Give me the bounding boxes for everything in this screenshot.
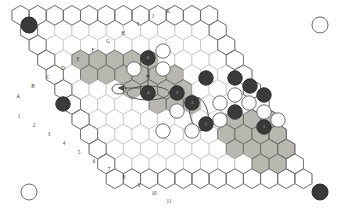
stone-light-4[interactable] [228, 88, 242, 102]
edge-label-number-9: 9 [138, 182, 141, 188]
stone-dark-4[interactable]: 2 [170, 86, 184, 100]
stone-light-8[interactable] [213, 113, 227, 127]
edge-label-letter-C: C [46, 74, 50, 80]
stone-light-7[interactable] [257, 105, 271, 119]
stone-dark-3[interactable]: 4 [141, 86, 155, 100]
stone-dark-5[interactable]: 3 [185, 96, 199, 110]
stone-light-10[interactable] [170, 104, 184, 118]
edge-label-letter-G: G [106, 38, 110, 44]
stone-light-12[interactable] [185, 124, 199, 138]
stone-dark-10[interactable] [228, 105, 242, 119]
stone-light-2[interactable] [127, 62, 141, 76]
edge-label-number-10: 10 [151, 190, 157, 196]
edge-label-number-3: 3 [48, 131, 51, 137]
stone-light-9[interactable] [271, 113, 285, 127]
stone-light-3[interactable] [156, 62, 170, 76]
edge-label-number-8: 8 [123, 174, 126, 180]
stone-dark-12[interactable]: 1 [257, 120, 271, 134]
edge-label-letter-B: B [31, 83, 35, 89]
edge-label-number-11: 11 [167, 198, 172, 204]
edge-label-letter-I: I [137, 21, 139, 27]
stone-dark-12-mark: 1 [263, 124, 265, 129]
stone-dark-4-mark: 2 [176, 90, 178, 95]
stone-dark-11[interactable]: 5 [199, 117, 213, 131]
edge-label-letter-D: D [61, 65, 65, 71]
stone-dark-1[interactable] [56, 97, 70, 111]
edge-label-number-1: 1 [18, 113, 21, 119]
stone-dark-9[interactable] [257, 88, 271, 102]
edge-label-letter-J: J [152, 13, 154, 19]
edge-label-number-6: 6 [93, 158, 96, 164]
edge-label-number-4: 4 [63, 140, 66, 146]
stone-light-11[interactable] [156, 124, 170, 138]
stone-light-5[interactable] [213, 96, 227, 110]
edge-label-number-2: 2 [33, 122, 36, 128]
edge-label-number-7: 7 [108, 166, 111, 172]
corner-stone-top-right[interactable] [312, 17, 328, 33]
hex-board-svg: 642351 ABCDEFGHIJK1234567891011 [0, 0, 349, 216]
edge-label-letter-E: E [76, 56, 79, 62]
board-figure: 642351 ABCDEFGHIJK1234567891011 [0, 0, 349, 216]
corner-stone-bottom-left[interactable] [21, 184, 37, 200]
stone-dark-7[interactable] [228, 71, 242, 85]
edge-label-letter-K: K [166, 8, 170, 14]
stone-light-1[interactable] [156, 44, 170, 58]
connector-dot [146, 74, 149, 77]
corner-stone-bottom-right[interactable] [312, 184, 328, 200]
edge-label-number-5: 5 [78, 149, 81, 155]
corner-stone-top-left[interactable] [21, 17, 37, 33]
stone-dark-2[interactable]: 6 [141, 51, 155, 65]
edge-label-letter-A: A [16, 93, 20, 99]
stone-light-6[interactable] [242, 96, 256, 110]
stone-dark-8[interactable] [243, 79, 257, 93]
edge-label-letter-H: H [121, 30, 125, 36]
stone-dark-6[interactable] [199, 71, 213, 85]
edge-label-letter-F: F [92, 47, 95, 53]
